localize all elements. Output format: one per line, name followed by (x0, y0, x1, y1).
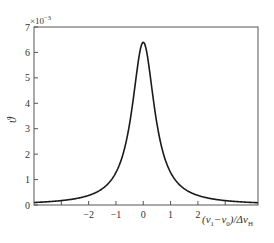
x-axis-label: (ν1−ν0)/ΔνH (202, 213, 253, 228)
y-tick-label: 5 (25, 72, 30, 83)
y-tick-label: 4 (25, 98, 30, 109)
y-tick-label: 1 (25, 174, 30, 185)
plot-frame (34, 27, 258, 205)
chart: 01234567 −2−1012 ×10−3 ϑ (ν1−ν0)/ΔνH (0, 0, 274, 243)
x-tick-label: −1 (111, 209, 122, 220)
y-multiplier: ×10−3 (30, 14, 51, 26)
x-axis-ticks: −2−1012 (61, 201, 225, 220)
y-tick-label: 2 (25, 149, 30, 160)
x-tick-label: −2 (83, 209, 94, 220)
lorentzian-curve (34, 42, 258, 202)
y-tick-label: 6 (25, 47, 30, 58)
y-tick-label: 0 (25, 200, 30, 211)
y-axis-label: ϑ (5, 116, 19, 123)
x-tick-label: 0 (141, 209, 146, 220)
y-axis-ticks: 01234567 (25, 22, 38, 211)
x-tick-label: 1 (168, 209, 173, 220)
y-tick-label: 3 (25, 123, 30, 134)
x-tick-label: 2 (195, 209, 200, 220)
